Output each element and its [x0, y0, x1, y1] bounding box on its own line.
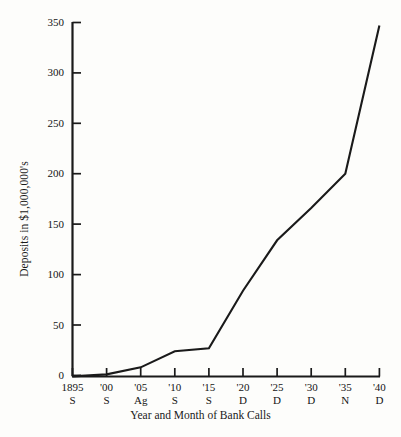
y-tick-label-250: 250	[30, 118, 64, 129]
y-axis-ticks	[73, 23, 82, 376]
y-tick-label-0: 0	[30, 370, 64, 381]
axis-lines	[72, 22, 380, 377]
y-tick-label-100: 100	[30, 269, 64, 280]
x-axis-title: Year and Month of Bank Calls	[0, 409, 401, 421]
y-tick-label-150: 150	[30, 219, 64, 230]
x-tick-month-40: D	[356, 394, 401, 407]
y-tick-label-50: 50	[30, 320, 64, 331]
x-tick-year-40: '40	[356, 381, 401, 394]
y-tick-label-300: 300	[30, 67, 64, 78]
bank-deposits-line-chart: Deposits in $1,000,000's 350 300 250 200…	[0, 0, 401, 437]
y-tick-label-350: 350	[30, 17, 64, 28]
deposits-series-line	[73, 26, 380, 377]
x-tick-label-40: '40 D	[356, 381, 401, 407]
y-tick-label-200: 200	[30, 168, 64, 179]
